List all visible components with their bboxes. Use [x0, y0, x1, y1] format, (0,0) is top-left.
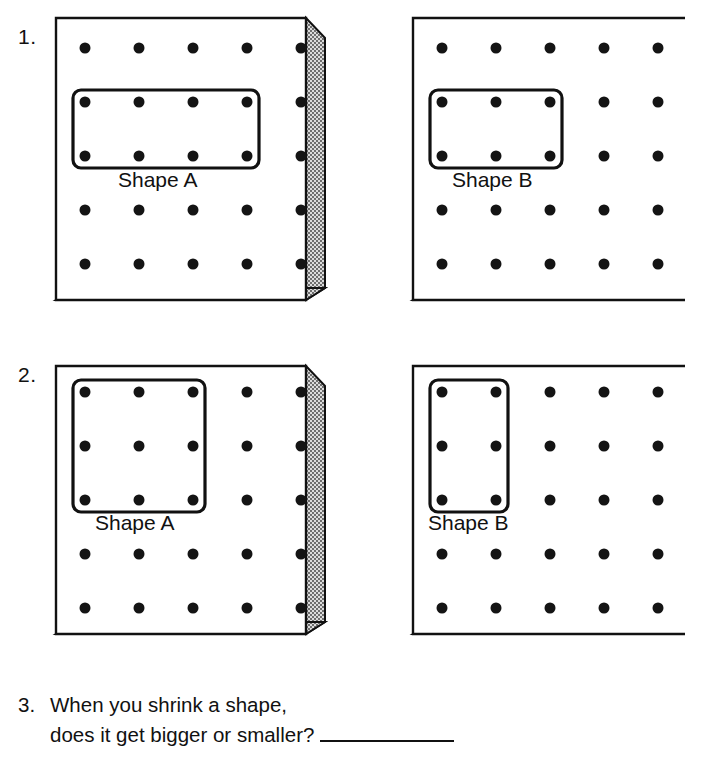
board-face [56, 18, 306, 300]
shape-label-problem2-a: Shape A [95, 512, 174, 533]
question-row: 3. When you shrink a shape, does it get … [18, 690, 618, 750]
geoboard-problem1-shape-b[interactable] [405, 12, 685, 322]
question-line-1: When you shrink a shape, [50, 690, 618, 720]
question-number-3: 3. [18, 690, 50, 720]
problem-number-1: 1. [18, 26, 37, 47]
question-text: When you shrink a shape, does it get big… [50, 690, 618, 750]
geoboard-svg [405, 360, 685, 660]
worksheet-page: 1. [0, 0, 723, 782]
shape-label-problem1-a: Shape A [118, 169, 197, 190]
geoboard-svg [48, 12, 328, 322]
geoboard-problem2-shape-b[interactable] [405, 360, 685, 660]
geoboard-svg [48, 360, 328, 660]
question-line-2: does it get bigger or smaller? [50, 720, 314, 750]
board-right-edge [306, 18, 325, 300]
geoboard-problem2-shape-a[interactable] [48, 360, 328, 660]
geoboard-svg [405, 12, 685, 322]
question-line-2-row: does it get bigger or smaller? [50, 720, 618, 750]
geoboard-problem1-shape-a[interactable] [48, 12, 328, 322]
problem-number-2: 2. [18, 364, 37, 385]
answer-blank-input[interactable] [320, 722, 454, 742]
shape-label-problem2-b: Shape B [428, 512, 509, 533]
shape-label-problem1-b: Shape B [452, 169, 533, 190]
board-face [56, 366, 306, 634]
question-block: 3. When you shrink a shape, does it get … [18, 690, 618, 750]
board-right-edge [306, 366, 325, 634]
